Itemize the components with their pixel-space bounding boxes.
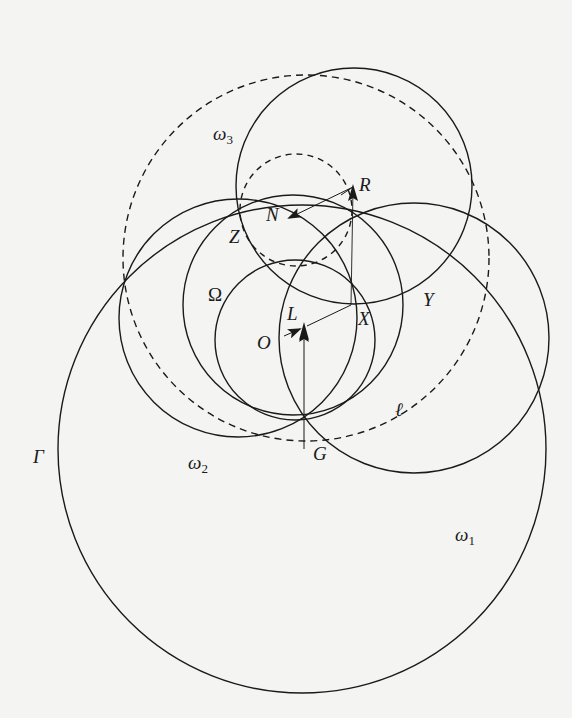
geometry-figure: ω3 R N Z Ω Y X L O ℓ Γ G ω2 ω1 xyxy=(0,0,572,718)
segment-rn xyxy=(289,187,353,218)
label-omega3: ω3 xyxy=(213,123,233,147)
segment-ol xyxy=(284,329,300,336)
label-gamma: Γ xyxy=(32,446,45,467)
label-l: L xyxy=(286,303,298,324)
circle-omega3 xyxy=(236,68,472,304)
label-n: N xyxy=(265,204,280,225)
label-x: X xyxy=(357,308,371,329)
segment-xl xyxy=(307,305,351,326)
label-o: O xyxy=(257,332,271,353)
label-z: Z xyxy=(229,226,240,247)
label-big-omega: Ω xyxy=(208,284,222,305)
diagram-canvas: ω3 R N Z Ω Y X L O ℓ Γ G ω2 ω1 xyxy=(0,0,572,718)
label-g: G xyxy=(313,443,327,464)
label-omega2: ω2 xyxy=(188,452,208,476)
label-y: Y xyxy=(423,289,436,310)
circle-omega1 xyxy=(279,203,549,473)
label-omega1: ω1 xyxy=(455,524,475,548)
label-r: R xyxy=(358,174,371,195)
label-ell: ℓ xyxy=(395,399,403,420)
circle-gamma xyxy=(58,205,546,693)
